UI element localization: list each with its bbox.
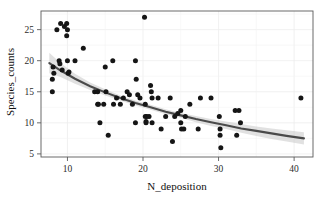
svg-text:20: 20 bbox=[138, 164, 148, 174]
confidence-band bbox=[49, 53, 304, 145]
x-axis-ticks: 10203040 bbox=[63, 157, 299, 174]
plot-canvas: 10203040 510152025 N_deposition Species_… bbox=[0, 0, 330, 198]
x-axis-title: N_deposition bbox=[147, 180, 207, 192]
svg-text:10: 10 bbox=[63, 164, 73, 174]
y-axis-title: Species_counts bbox=[4, 48, 16, 116]
svg-text:40: 40 bbox=[289, 164, 299, 174]
y-axis-ticks: 510152025 bbox=[25, 25, 42, 159]
svg-text:15: 15 bbox=[25, 87, 35, 97]
svg-text:10: 10 bbox=[25, 118, 35, 128]
scatter-plot-figure: 10203040 510152025 N_deposition Species_… bbox=[0, 0, 330, 198]
svg-text:25: 25 bbox=[25, 25, 35, 35]
svg-text:20: 20 bbox=[25, 56, 35, 66]
svg-text:30: 30 bbox=[214, 164, 224, 174]
svg-text:5: 5 bbox=[29, 149, 34, 159]
regression-fit-line bbox=[49, 63, 304, 138]
